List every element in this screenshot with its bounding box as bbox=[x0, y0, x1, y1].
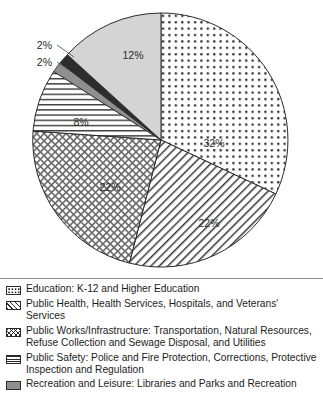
legend-label-public-works: Public Works/Infrastructure: Transportat… bbox=[26, 325, 312, 349]
legend-label-recreation: Recreation and Leisure: Libraries and Pa… bbox=[26, 378, 297, 390]
legend-item-public-safety[interactable]: Public Safety: Police and Fire Protectio… bbox=[6, 352, 319, 376]
legend-label-public-health: Public Health, Health Services, Hospital… bbox=[26, 298, 319, 322]
pie-chart-area: 32% 22% 22% 8% 2% 2% 12% bbox=[0, 0, 323, 279]
legend-swatch-gray-icon bbox=[6, 381, 21, 390]
pie-label-public-works: 22% bbox=[99, 181, 120, 193]
legend-label-education: Education: K-12 and Higher Education bbox=[26, 283, 199, 295]
pie-label-other-light: 12% bbox=[122, 49, 143, 61]
legend-swatch-dots-icon bbox=[6, 286, 21, 295]
pie-label-education: 32% bbox=[203, 137, 224, 149]
legend-swatch-crosshatch-icon bbox=[6, 328, 21, 337]
pie-label-public-safety: 8% bbox=[73, 116, 88, 128]
legend-item-public-works[interactable]: Public Works/Infrastructure: Transportat… bbox=[6, 325, 319, 349]
legend-item-public-health[interactable]: Public Health, Health Services, Hospital… bbox=[6, 298, 319, 322]
legend-item-recreation[interactable]: Recreation and Leisure: Libraries and Pa… bbox=[6, 378, 319, 390]
pie-label-public-health: 22% bbox=[198, 217, 219, 229]
pie-label-other-dark: 2% bbox=[37, 39, 52, 51]
legend: Education: K-12 and Higher Education Pub… bbox=[0, 283, 323, 393]
pie-chart-svg: 32% 22% 22% 8% 2% 2% 12% bbox=[0, 0, 323, 279]
legend-swatch-hlines-icon bbox=[6, 355, 21, 364]
pie-label-recreation: 2% bbox=[37, 56, 52, 68]
legend-swatch-diagonal-icon bbox=[6, 301, 21, 310]
legend-divider bbox=[0, 278, 323, 279]
legend-item-education[interactable]: Education: K-12 and Higher Education bbox=[6, 283, 319, 295]
legend-label-public-safety: Public Safety: Police and Fire Protectio… bbox=[26, 352, 316, 376]
